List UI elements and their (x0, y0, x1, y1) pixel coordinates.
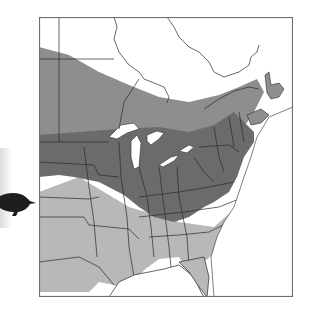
range-map (39, 17, 293, 297)
bird-silhouette-icon (0, 186, 40, 226)
